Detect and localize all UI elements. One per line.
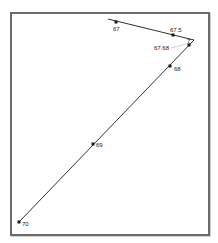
point-marker	[115, 21, 118, 24]
point-marker	[169, 65, 172, 68]
point-label: 68	[174, 66, 181, 72]
callout-label: 67.68	[154, 45, 170, 51]
path-diagram: 67.686767.57686970	[0, 0, 218, 243]
point-marker	[92, 143, 95, 146]
point-label: 67.5	[170, 27, 182, 33]
point-marker	[172, 34, 175, 37]
point-label: 67	[113, 26, 120, 32]
point-marker	[18, 221, 21, 224]
point-label: 69	[96, 142, 103, 148]
point-label: 70	[22, 221, 29, 227]
